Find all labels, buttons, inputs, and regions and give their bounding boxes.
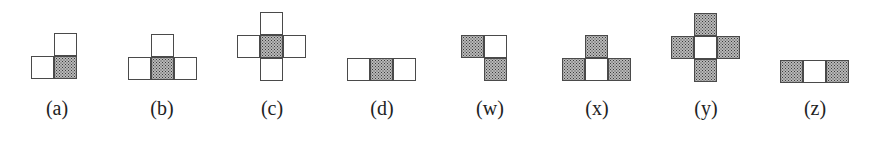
empty-cell [237,35,260,58]
figure-label-b: (b) [142,96,182,120]
empty-cell [585,58,608,81]
shaded-cell [694,59,717,82]
shaded-cell [780,60,803,83]
empty-cell [260,12,283,35]
shaded-cell [260,35,283,58]
figure-label-x: (x) [577,96,617,120]
empty-cell [347,58,370,81]
figure-label-w: (w) [470,96,510,120]
shaded-cell [54,56,77,79]
empty-cell [694,36,717,59]
shaded-cell [608,58,631,81]
shaded-cell [461,35,484,58]
shaded-cell [484,58,507,81]
empty-cell [128,57,151,80]
shaded-cell [694,13,717,36]
empty-cell [31,56,54,79]
shaded-cell [151,57,174,80]
figure-label-z: (z) [795,96,835,120]
figure-label-a: (a) [37,96,77,120]
empty-cell [484,35,507,58]
figure-label-d: (d) [362,96,402,120]
empty-cell [803,60,826,83]
empty-cell [151,34,174,57]
figure-label-y: (y) [686,96,726,120]
shaded-cell [562,58,585,81]
shaded-cell [585,35,608,58]
shaded-cell [826,60,849,83]
empty-cell [393,58,416,81]
shaded-cell [671,36,694,59]
shaded-cell [370,58,393,81]
empty-cell [260,58,283,81]
empty-cell [283,35,306,58]
figure-label-c: (c) [252,96,292,120]
empty-cell [54,33,77,56]
shaded-cell [717,36,740,59]
empty-cell [174,57,197,80]
